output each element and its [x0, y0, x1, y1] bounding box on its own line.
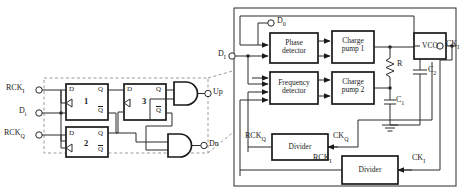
charge-pump-2-label: Charge pump 2	[332, 78, 374, 94]
output-label-dn: Dn	[209, 140, 219, 148]
net-label-ck-q: CKQ	[333, 132, 348, 142]
input-label-d-i: Di	[19, 107, 26, 117]
ff3-pin-q: Q	[156, 86, 161, 93]
port-label-d-i: DI	[218, 50, 226, 60]
charge-pump-1-line2: pump 1	[332, 45, 374, 53]
and-gate-up-shape	[174, 82, 211, 105]
and-gate-dn-shape	[168, 134, 207, 157]
ff2-pin-d: D	[69, 130, 74, 137]
resistor-r-label: R	[397, 60, 402, 68]
ff1-pin-d: D	[69, 86, 74, 93]
phase-detector-line2: detector	[270, 47, 318, 55]
input-label-rck-q: RCKQ	[4, 129, 25, 139]
ff3-number: 3	[142, 97, 146, 106]
frequency-detector-label: Frequency detector	[270, 79, 318, 95]
vco-label: VCO	[414, 42, 446, 50]
divider-i-label: Divider	[342, 166, 398, 174]
ff2-pin-qbar: Q	[98, 146, 103, 153]
output-label-up: Up	[213, 88, 223, 96]
ff2-number: 2	[84, 139, 88, 148]
port-label-ck-i-out: CKI	[446, 40, 459, 50]
input-label-rck-i: RCKI	[6, 84, 24, 94]
charge-pump-2-line2: pump 2	[332, 86, 374, 94]
ff1-pin-q: Q	[98, 86, 103, 93]
circuit-diagram-canvas: RCKI Di RCKQ D Q Q 1 D Q Q 2 D Q Q 3 Up …	[0, 0, 467, 192]
net-label-ck-i: CKI	[412, 154, 425, 164]
net-label-rck-i: RCKI	[313, 154, 331, 164]
capacitor-c2-label: C2	[428, 66, 436, 76]
divider-q-label: Divider	[272, 143, 328, 151]
capacitor-c1-label: C1	[396, 96, 404, 106]
frequency-detector-line2: detector	[270, 87, 318, 95]
ff3-pin-qbar: Q	[156, 107, 161, 114]
ff3-pin-d: D	[127, 86, 132, 93]
port-label-d0: D0	[277, 17, 286, 27]
phase-detector-label: Phase detector	[270, 39, 318, 55]
ff1-pin-qbar: Q	[98, 107, 103, 114]
ff2-pin-q: Q	[98, 130, 103, 137]
charge-pump-1-label: Charge pump 1	[332, 37, 374, 53]
net-label-rck-q: RCKQ	[245, 132, 266, 142]
ff1-number: 1	[84, 97, 88, 106]
